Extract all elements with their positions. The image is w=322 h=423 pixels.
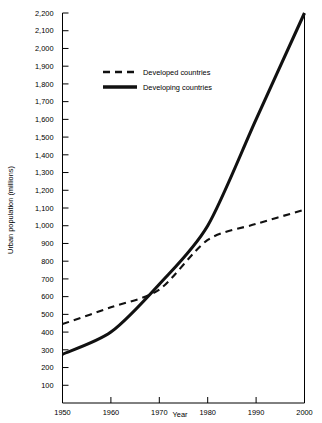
x-axis-tick-marks — [111, 397, 256, 403]
y-tick-label: 1,800 — [35, 80, 54, 89]
series-line-developed-countries — [63, 210, 305, 324]
x-axis-title: Year — [173, 410, 188, 419]
line-chart: 1002003004005006007008009001,0001,1001,2… — [0, 0, 322, 423]
y-tick-label: 1,700 — [35, 97, 54, 106]
y-tick-label: 1,300 — [35, 168, 54, 177]
y-tick-label: 1,000 — [35, 221, 54, 230]
series-line-developing-countries — [63, 13, 305, 354]
y-tick-label: 2,200 — [35, 9, 54, 18]
y-tick-label: 1,200 — [35, 186, 54, 195]
x-tick-label: 2000 — [296, 408, 312, 417]
y-axis-tick-labels: 1002003004005006007008009001,0001,1001,2… — [35, 9, 54, 390]
x-tick-label: 1980 — [199, 408, 215, 417]
legend: Developed countries Developing countries — [103, 68, 212, 92]
y-tick-label: 200 — [41, 363, 53, 372]
legend-label-developed: Developed countries — [143, 68, 211, 77]
x-tick-label: 1990 — [248, 408, 264, 417]
y-tick-label: 1,500 — [35, 133, 54, 142]
y-tick-label: 2,100 — [35, 26, 54, 35]
y-tick-label: 500 — [41, 310, 53, 319]
y-axis-tick-marks — [63, 13, 69, 385]
chart-container: 1002003004005006007008009001,0001,1001,2… — [0, 0, 322, 423]
y-tick-label: 900 — [41, 239, 53, 248]
y-tick-label: 100 — [41, 381, 53, 390]
y-axis-title: Urban population (millions) — [6, 166, 15, 254]
y-tick-label: 1,900 — [35, 62, 54, 71]
x-tick-label: 1970 — [151, 408, 167, 417]
y-tick-label: 700 — [41, 275, 53, 284]
y-tick-label: 2,000 — [35, 44, 54, 53]
y-tick-label: 1,400 — [35, 151, 54, 160]
legend-label-developing: Developing countries — [143, 83, 212, 92]
x-tick-label: 1960 — [103, 408, 119, 417]
y-tick-label: 600 — [41, 292, 53, 301]
x-tick-label: 1950 — [54, 408, 70, 417]
y-tick-label: 800 — [41, 257, 53, 266]
y-tick-label: 1,600 — [35, 115, 54, 124]
y-tick-label: 400 — [41, 328, 53, 337]
y-tick-label: 300 — [41, 346, 53, 355]
y-tick-label: 1,100 — [35, 204, 54, 213]
